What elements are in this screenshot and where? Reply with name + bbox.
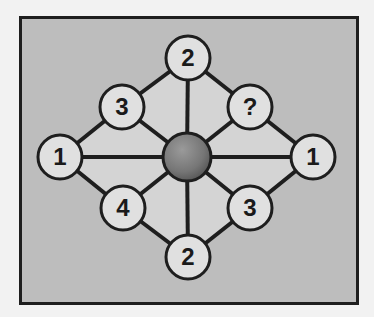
puzzle-stage: 23?11432 bbox=[0, 0, 374, 317]
center-sphere bbox=[163, 133, 211, 181]
node-upper-left: 3 bbox=[100, 85, 144, 129]
node-right: 1 bbox=[291, 135, 335, 179]
node-value-label: 3 bbox=[115, 93, 128, 120]
node-value-label: 1 bbox=[306, 143, 319, 170]
puzzle-diagram: 23?11432 bbox=[0, 0, 374, 317]
node-value-label: 1 bbox=[53, 143, 66, 170]
node-top: 2 bbox=[166, 36, 210, 80]
node-value-label: 3 bbox=[243, 194, 256, 221]
node-lower-left: 4 bbox=[101, 186, 145, 230]
node-value-label: 2 bbox=[181, 44, 194, 71]
unknown-value-label: ? bbox=[243, 93, 258, 120]
node-value-label: 4 bbox=[116, 194, 130, 221]
node-left: 1 bbox=[38, 135, 82, 179]
node-upper-right: ? bbox=[228, 85, 272, 129]
node-bottom: 2 bbox=[166, 235, 210, 279]
node-value-label: 2 bbox=[181, 243, 194, 270]
node-lower-right: 3 bbox=[228, 186, 272, 230]
